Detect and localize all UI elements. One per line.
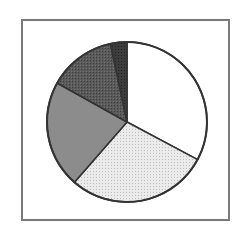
pie-chart — [0, 0, 247, 236]
